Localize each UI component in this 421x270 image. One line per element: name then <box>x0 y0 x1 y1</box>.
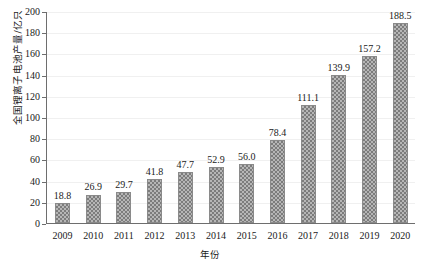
x-axis-tick-label: 2017 <box>298 230 318 241</box>
bar <box>178 172 193 223</box>
bar-value-label: 26.9 <box>84 182 102 192</box>
y-axis-tick-label: 40 <box>30 177 40 187</box>
gridline <box>47 97 415 98</box>
bar <box>239 164 254 223</box>
gridline <box>47 33 415 34</box>
y-axis-tick-label: 80 <box>30 134 40 144</box>
x-axis-tick-label: 2019 <box>360 230 380 241</box>
bar <box>270 140 285 223</box>
y-axis-tick-label: 100 <box>25 113 40 123</box>
bar-value-label: 78.4 <box>269 128 287 138</box>
bar-value-label: 41.8 <box>146 167 164 177</box>
y-axis-tick <box>42 182 46 183</box>
bar-value-label: 29.7 <box>115 180 133 190</box>
x-axis-tick-label: 2010 <box>83 230 103 241</box>
y-axis-tick <box>42 203 46 204</box>
y-axis-tick <box>42 76 46 77</box>
gridline <box>47 182 415 183</box>
gridline <box>47 76 415 77</box>
y-axis-tick-label: 120 <box>25 92 40 102</box>
y-axis-tick <box>42 160 46 161</box>
y-axis-tick <box>42 54 46 55</box>
bar-value-label: 56.0 <box>238 152 256 162</box>
bar-value-label: 157.2 <box>358 44 381 54</box>
y-axis-tick-label: 180 <box>25 28 40 38</box>
y-axis-title: 全国锂离子电池产量/亿只 <box>12 0 23 145</box>
plot-area: 020406080100120140160180200 18.826.929.7… <box>46 12 415 224</box>
y-axis-tick <box>42 33 46 34</box>
y-axis-tick-label: 0 <box>35 219 40 229</box>
bar <box>209 167 224 223</box>
gridline <box>47 54 415 55</box>
x-axis-tick-label: 2014 <box>206 230 226 241</box>
bar-value-label: 18.8 <box>54 191 72 201</box>
gridline <box>47 12 415 13</box>
bar <box>301 105 316 223</box>
y-axis-tick <box>42 224 46 225</box>
bar-value-label: 111.1 <box>297 93 319 103</box>
bar <box>116 192 131 223</box>
x-axis-tick-label: 2016 <box>267 230 287 241</box>
gridline <box>47 203 415 204</box>
x-axis-tick-label: 2013 <box>175 230 195 241</box>
y-axis-tick <box>42 12 46 13</box>
bar <box>331 75 346 223</box>
y-axis-tick <box>42 97 46 98</box>
gridline <box>47 139 415 140</box>
y-axis-tick-label: 140 <box>25 71 40 81</box>
bar-chart: 全国锂离子电池产量/亿只 020406080100120140160180200… <box>0 0 421 270</box>
bar-value-label: 52.9 <box>207 155 225 165</box>
bar <box>86 195 101 224</box>
x-axis-tick-label: 2018 <box>329 230 349 241</box>
x-axis-tick-label: 2011 <box>114 230 134 241</box>
y-axis-tick-label: 20 <box>30 198 40 208</box>
x-axis-title: 年份 <box>0 249 421 260</box>
x-axis-tick-label: 2012 <box>145 230 165 241</box>
bar <box>55 203 70 223</box>
bar-value-label: 47.7 <box>177 160 195 170</box>
y-axis-tick-label: 60 <box>30 155 40 165</box>
bar-value-label: 139.9 <box>328 63 351 73</box>
x-axis-tick-label: 2015 <box>237 230 257 241</box>
bar <box>393 23 408 223</box>
y-axis-tick <box>42 118 46 119</box>
bar <box>362 56 377 223</box>
gridline <box>47 118 415 119</box>
x-axis-tick-label: 2009 <box>53 230 73 241</box>
x-axis-tick-label: 2020 <box>390 230 410 241</box>
x-axis-line <box>46 223 415 224</box>
gridline <box>47 160 415 161</box>
bar <box>147 179 162 223</box>
y-axis-tick <box>42 139 46 140</box>
bar-value-label: 188.5 <box>389 11 412 21</box>
y-axis-tick-label: 160 <box>25 49 40 59</box>
y-axis-tick-label: 200 <box>25 7 40 17</box>
